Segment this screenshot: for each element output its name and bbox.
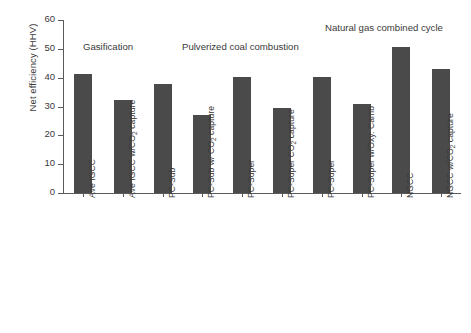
y-tick: 60 bbox=[58, 20, 63, 21]
y-tick-label: 20 bbox=[44, 128, 55, 139]
x-tick bbox=[123, 193, 124, 197]
x-axis-label: PC-Super CO2 capture bbox=[286, 109, 296, 198]
y-tick-label: 60 bbox=[44, 13, 55, 24]
x-axis-label: NGCC bbox=[405, 172, 415, 198]
x-axis-label: Ave IGCC w/CO2 capture bbox=[127, 100, 137, 198]
y-tick: 50 bbox=[58, 49, 63, 50]
group-annotation: Natural gas combined cycle bbox=[325, 22, 443, 33]
net-efficiency-bar-chart: Net efficiency (HHV) 0102030405060 Ave I… bbox=[0, 0, 471, 333]
group-annotation: Pulverized coal combustion bbox=[182, 41, 299, 52]
y-tick-label: 30 bbox=[44, 100, 55, 111]
x-axis-label: Ave IGCC bbox=[87, 159, 97, 198]
x-tick bbox=[202, 193, 203, 197]
x-axis-label: PC-Super bbox=[326, 160, 336, 198]
x-tick bbox=[401, 193, 402, 197]
y-tick-label: 10 bbox=[44, 157, 55, 168]
y-tick: 10 bbox=[58, 164, 63, 165]
y-tick: 40 bbox=[58, 78, 63, 79]
x-axis-label: PC-Super bbox=[246, 160, 256, 198]
y-tick: 20 bbox=[58, 135, 63, 136]
y-tick-label: 0 bbox=[50, 186, 55, 197]
x-axis-label: NGCC w/CO2 capture bbox=[445, 113, 455, 198]
bar bbox=[392, 47, 410, 193]
x-tick bbox=[163, 193, 164, 197]
x-tick bbox=[322, 193, 323, 197]
y-tick: 0 bbox=[58, 193, 63, 194]
group-annotation: Gasification bbox=[83, 41, 133, 52]
y-tick-label: 40 bbox=[44, 71, 55, 82]
x-tick bbox=[242, 193, 243, 197]
x-tick bbox=[83, 193, 84, 197]
y-axis-line bbox=[63, 20, 64, 193]
x-tick bbox=[282, 193, 283, 197]
y-axis-title: Net efficiency (HHV) bbox=[27, 0, 38, 138]
x-axis-label: PC-Sub bbox=[167, 168, 177, 198]
x-axis-label: PC-Super w/Oxy. Camb bbox=[366, 106, 376, 198]
y-tick: 30 bbox=[58, 107, 63, 108]
x-tick bbox=[441, 193, 442, 197]
x-tick bbox=[362, 193, 363, 197]
x-axis-label: PC-Sub w/ CO2 capture bbox=[206, 106, 216, 198]
y-tick-label: 50 bbox=[44, 42, 55, 53]
